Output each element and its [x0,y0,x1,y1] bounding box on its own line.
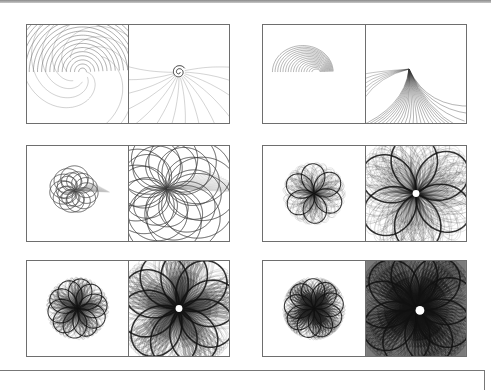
top-border-bar [0,0,491,3]
plot-left [262,24,366,124]
plot-right [128,145,230,242]
center-hole [413,190,420,197]
plot-right [365,145,467,242]
panel-pair-r3-c2 [262,260,467,357]
loop-curve [162,146,229,204]
pattern-vortex-rays [129,25,229,123]
pattern-loop-knot-zoom [129,146,229,241]
loop-curve [166,170,221,220]
vortex-ray [129,78,178,123]
spiral-curve [27,69,95,108]
spiral-arc [70,60,94,72]
plot-left [262,260,366,357]
panel-pair-r3-c1 [26,260,230,357]
vortex-ray [129,25,173,72]
pattern-spiral-arcs [27,25,128,123]
vortex-ray [129,77,176,123]
vortex-ray [183,76,229,123]
vortex-ray [129,47,173,80]
dome-arc [309,68,321,73]
pattern-rose-dense [263,261,365,356]
fan-line [409,69,460,123]
center-hole [176,305,183,312]
pattern-rose [27,261,128,356]
plot-left [262,145,366,242]
spiral-curve [31,25,88,98]
pattern-loop-knot [27,146,128,241]
plot-left [26,145,129,242]
plot-left [26,24,129,124]
pattern-rose-dense-zoom [366,261,466,356]
fan-line [366,69,409,84]
plot-right [128,24,230,124]
dome-arc [312,69,320,72]
caption-box [0,370,485,390]
panel-pair-r2-c2 [262,145,467,242]
spiral-curve [27,57,123,123]
spiral-arc [38,27,128,72]
fan-line [380,69,409,123]
panel-pair-r1-c1 [26,24,230,124]
panel-pair-r2-c1 [26,145,230,242]
pattern-half-dome [263,25,365,123]
fan-line [409,69,450,123]
pattern-fan-sweep [366,25,466,123]
plot-left [26,260,129,357]
pattern-rose-zoom [129,261,229,356]
panel-pair-r1-c2 [262,24,467,124]
plot-right [128,260,230,357]
plot-right [365,260,467,357]
spiral-curve [70,37,128,123]
pattern-rose [263,146,365,241]
vortex-core [173,66,184,77]
spiral-arc [62,52,103,72]
vortex-ray [182,77,203,123]
pattern-rose-zoom [366,146,466,241]
vortex-ray [129,76,175,123]
loop-curve [50,174,76,198]
vortex-ray [129,75,174,98]
center-hole [416,306,425,315]
spiral-arc [79,68,87,72]
plot-right [365,24,467,124]
